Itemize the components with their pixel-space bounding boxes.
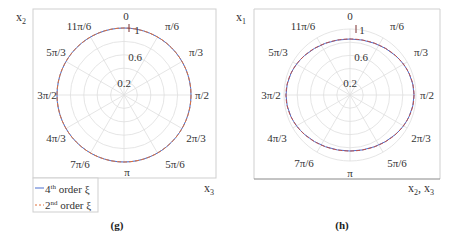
angle-tick-0-h: 0: [347, 10, 353, 22]
angle-tick-0: 0: [123, 10, 129, 22]
angle-tick-4pi-3-h: 4π/3: [267, 132, 287, 144]
figure: 0.2 0.6 1 0 π/6 π/3 π/2 2π/3 5π/6 π 7π/6…: [0, 0, 456, 242]
panel-h: 0.2 0.6 1 0 π/6 π/3 π/2 2π/3 5π/6 π 7π/6…: [236, 9, 440, 232]
angle-tick-2pi-3: 2π/3: [186, 132, 206, 144]
angle-tick-pi-2: π/2: [195, 89, 209, 101]
angle-tick-5pi-6: 5π/6: [165, 158, 185, 170]
polar-grid-h: [284, 29, 416, 161]
angle-tick-pi-h: π: [347, 167, 353, 179]
angle-tick-pi-3-h: π/3: [414, 46, 429, 58]
angle-tick-11pi-6-h: 11π/6: [291, 20, 316, 32]
angle-tick-5pi-3-h: 5π/3: [268, 46, 288, 58]
caption-h: (h): [335, 219, 349, 232]
x-axis-label-h: x2, x3: [408, 181, 434, 197]
angle-tick-pi-3: π/3: [189, 46, 204, 58]
radial-tick-0.6-h: 0.6: [354, 51, 368, 63]
panel-g: 0.2 0.6 1 0 π/6 π/3 π/2 2π/3 5π/6 π 7π/6…: [16, 9, 216, 232]
angle-tick-5pi-6-h: 5π/6: [387, 157, 407, 169]
radial-tick-1-h: 1: [359, 24, 365, 36]
angle-tick-7pi-6: 7π/6: [70, 158, 90, 170]
angle-tick-4pi-3: 4π/3: [46, 132, 66, 144]
angle-tick-2pi-3-h: 2π/3: [411, 132, 431, 144]
angle-tick-5pi-3: 5π/3: [46, 46, 66, 58]
angle-tick-11pi-6: 11π/6: [67, 20, 92, 32]
angle-tick-pi-6-h: π/6: [390, 20, 405, 32]
legend: 4th order ξ 2nd order ξ: [33, 178, 98, 212]
angle-tick-pi-6: π/6: [165, 20, 180, 32]
angle-tick-7pi-6-h: 7π/6: [294, 157, 314, 169]
radial-tick-0.2-h: 0.2: [343, 77, 357, 89]
polar-grid-g: [57, 28, 191, 162]
angle-tick-pi-2-h: π/2: [420, 89, 434, 101]
x-axis-label-g: x3: [204, 181, 214, 197]
angle-tick-pi: π: [124, 166, 130, 178]
radial-tick-0.6: 0.6: [128, 51, 142, 63]
y-axis-label-h: x1: [236, 10, 246, 26]
radial-tick-0.2: 0.2: [117, 77, 131, 89]
angle-tick-3pi-2-h: 3π/2: [261, 89, 281, 101]
radial-tick-1: 1: [134, 24, 140, 36]
angle-tick-3pi-2: 3π/2: [37, 89, 57, 101]
y-axis-label-g: x2: [16, 10, 26, 26]
caption-g: (g): [111, 219, 124, 232]
